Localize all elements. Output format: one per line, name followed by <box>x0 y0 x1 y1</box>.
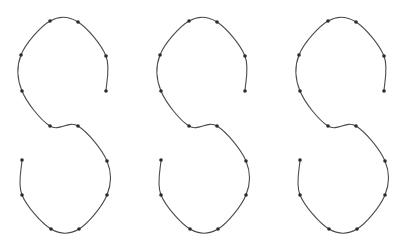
control-point <box>188 227 192 231</box>
control-point <box>327 227 331 231</box>
control-point <box>244 159 248 163</box>
control-point <box>382 54 386 58</box>
control-point <box>105 159 109 163</box>
control-point <box>104 89 108 93</box>
control-point <box>77 227 81 231</box>
control-point <box>243 89 247 93</box>
control-point <box>298 158 302 162</box>
control-point <box>76 20 80 24</box>
control-point <box>20 89 24 93</box>
s-curve-diagram <box>0 0 406 248</box>
control-point <box>383 159 387 163</box>
control-point <box>382 89 386 93</box>
control-point <box>49 227 53 231</box>
control-point <box>48 19 52 23</box>
control-point <box>355 227 359 231</box>
control-point <box>19 53 23 57</box>
control-point <box>20 193 24 197</box>
control-point <box>187 19 191 23</box>
background <box>0 0 406 248</box>
control-point <box>215 124 219 128</box>
control-point <box>298 193 302 197</box>
control-point <box>158 53 162 57</box>
control-point <box>297 53 301 57</box>
control-point <box>215 20 219 24</box>
control-point <box>48 124 52 128</box>
control-point <box>326 124 330 128</box>
control-point <box>104 54 108 58</box>
control-point <box>326 19 330 23</box>
control-point <box>354 124 358 128</box>
control-point <box>244 193 248 197</box>
control-point <box>383 193 387 197</box>
control-point <box>187 124 191 128</box>
control-point <box>76 124 80 128</box>
control-point <box>20 158 24 162</box>
control-point <box>159 158 163 162</box>
control-point <box>159 89 163 93</box>
control-point <box>105 193 109 197</box>
control-point <box>298 89 302 93</box>
control-point <box>354 20 358 24</box>
control-point <box>216 227 220 231</box>
control-point <box>159 193 163 197</box>
control-point <box>243 54 247 58</box>
